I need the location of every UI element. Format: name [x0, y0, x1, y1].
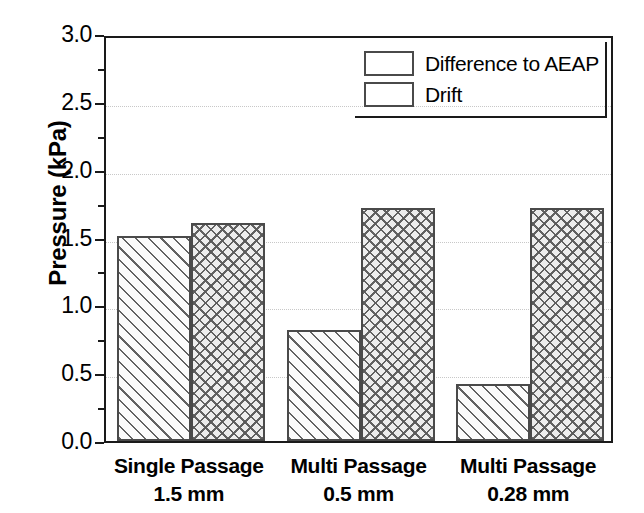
x-label-line-1: Multi Passage [460, 454, 596, 477]
y-tick-major [95, 171, 104, 173]
y-tick-major [95, 35, 104, 37]
x-label-line-1: Single Passage [114, 454, 264, 477]
plot-area: Difference to AEAPDrift [104, 36, 613, 443]
legend-swatch [364, 82, 414, 107]
y-tick-label: 0.5 [32, 360, 92, 387]
legend-entry[interactable]: Drift [355, 79, 605, 110]
bar [530, 208, 604, 441]
x-label-line-2: 0.28 mm [418, 480, 638, 508]
legend: Difference to AEAPDrift [355, 42, 607, 118]
legend-label: Drift [425, 83, 462, 107]
y-tick-major [95, 374, 104, 376]
legend-label: Difference to AEAP [425, 52, 599, 76]
x-label-line-1: Multi Passage [290, 454, 426, 477]
y-tick-major [95, 239, 104, 241]
gridline [106, 174, 611, 175]
y-tick-major [95, 442, 104, 444]
y-tick-major [95, 306, 104, 308]
y-tick-label: 2.0 [32, 157, 92, 184]
bar-chart-figure: Pressure (kPa) 0.00.51.01.52.02.53.0 Dif… [0, 0, 644, 513]
y-tick-major [95, 103, 104, 105]
bar [361, 208, 435, 441]
legend-swatch [364, 51, 414, 76]
bar [191, 223, 265, 441]
y-tick-label: 1.5 [32, 225, 92, 252]
x-axis-group-label: Multi Passage0.28 mm [418, 452, 638, 508]
bar [456, 384, 530, 441]
y-tick-label: 2.5 [32, 89, 92, 116]
y-tick-label: 3.0 [32, 21, 92, 48]
legend-entries: Difference to AEAPDrift [355, 48, 605, 110]
bar [287, 330, 361, 441]
y-tick-label: 1.0 [32, 292, 92, 319]
y-tick-label: 0.0 [32, 428, 92, 455]
legend-entry[interactable]: Difference to AEAP [355, 48, 605, 79]
bar [117, 236, 191, 441]
